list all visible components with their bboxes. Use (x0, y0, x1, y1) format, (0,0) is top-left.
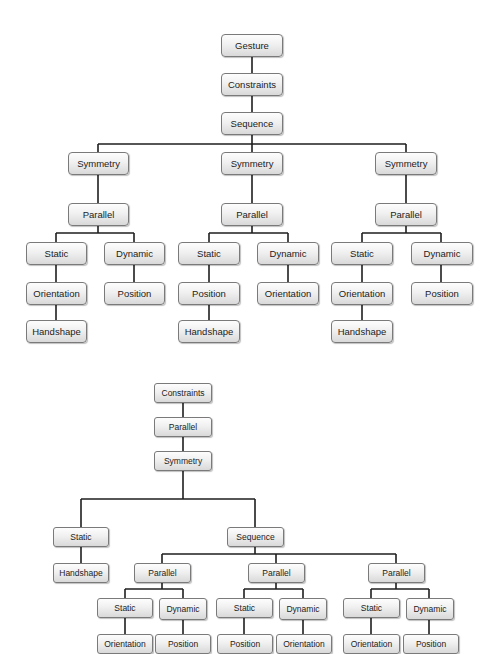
node-orientation: Orientation (331, 282, 393, 305)
node-position: Position (178, 282, 240, 305)
node-sequence: Sequence (227, 527, 284, 547)
node-position: Position (411, 282, 473, 305)
node-position: Position (104, 282, 165, 305)
node-position: Position (155, 634, 211, 654)
node-parallel: Parallel (375, 203, 437, 226)
node-symmetry: Symmetry (68, 152, 129, 175)
node-position: Position (403, 634, 459, 654)
node-symmetry: Symmetry (221, 152, 283, 175)
node-static: Static (97, 598, 153, 618)
node-handshape: Handshape (26, 320, 87, 343)
node-parallel: Parallel (154, 417, 212, 437)
node-sequence: Sequence (221, 112, 283, 135)
node-dynamic: Dynamic (257, 242, 319, 265)
node-parallel: Parallel (68, 203, 129, 226)
node-dynamic: Dynamic (104, 242, 165, 265)
node-orientation: Orientation (343, 634, 400, 654)
node-handshape: Handshape (53, 563, 109, 583)
node-parallel: Parallel (134, 563, 191, 583)
node-dynamic: Dynamic (406, 598, 454, 620)
node-symmetry: Symmetry (154, 451, 212, 471)
node-static: Static (53, 527, 109, 547)
node-position: Position (217, 634, 273, 654)
node-dynamic: Dynamic (411, 242, 473, 265)
node-dynamic: Dynamic (159, 598, 207, 620)
node-dynamic: Dynamic (279, 598, 327, 620)
node-orientation: Orientation (257, 282, 319, 305)
node-symmetry: Symmetry (375, 152, 437, 175)
node-orientation: Orientation (276, 634, 332, 654)
node-constraints: Constraints (221, 73, 283, 96)
node-static: Static (216, 598, 273, 618)
node-handshape: Handshape (178, 320, 240, 343)
node-constraints: Constraints (154, 383, 212, 403)
node-parallel: Parallel (221, 203, 283, 226)
node-orientation: Orientation (97, 634, 153, 654)
node-static: Static (26, 242, 87, 265)
node-gesture: Gesture (221, 34, 283, 57)
node-static: Static (343, 598, 400, 618)
node-handshape: Handshape (331, 320, 393, 343)
node-static: Static (178, 242, 240, 265)
node-orientation: Orientation (26, 282, 87, 305)
node-parallel: Parallel (248, 563, 305, 583)
node-static: Static (331, 242, 393, 265)
node-parallel: Parallel (368, 563, 425, 583)
